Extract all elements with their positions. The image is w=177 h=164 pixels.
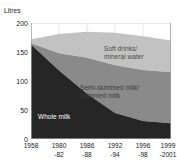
- x-tick-1996-98: 1996 -98: [136, 142, 151, 159]
- stacked-area-svg: [31, 23, 171, 139]
- x-tick-1980-82: 1980 -82: [52, 142, 67, 159]
- series-label-soft-drinks: Soft drinks/ mineral water: [104, 45, 144, 61]
- x-tick-1992-94: 1992 -94: [108, 142, 123, 159]
- x-axis-ticks: 1958 1980 -82 1986 -88 1992 -94 1996 -98…: [0, 141, 177, 164]
- series-label-semi-skimmed-line1: Semi-skimmed milk/: [80, 84, 139, 91]
- x-tick-1986-88: 1986 -88: [80, 142, 95, 159]
- series-label-soft-drinks-line2: mineral water: [104, 53, 144, 60]
- series-label-semi-skimmed-line2: skimmed milk: [80, 92, 120, 99]
- x-tick-1999-2001: 1999 -2001: [160, 142, 177, 159]
- series-label-semi-skimmed: Semi-skimmed milk/ skimmed milk: [80, 84, 139, 100]
- plot-area: Soft drinks/ mineral water Semi-skimmed …: [31, 23, 171, 139]
- chart-figure: ............ Litres 200 150 100 50 0: [0, 0, 177, 164]
- series-label-whole-milk: Whole milk: [38, 113, 70, 121]
- y-tick-150: 150: [16, 49, 28, 56]
- x-tick-1958: 1958: [24, 142, 39, 151]
- y-tick-100: 100: [16, 78, 28, 85]
- y-axis-ticks: 200 150 100 50 0: [0, 0, 28, 164]
- series-label-soft-drinks-line1: Soft drinks/: [104, 45, 137, 52]
- y-tick-200: 200: [16, 20, 28, 27]
- y-tick-50: 50: [20, 107, 28, 114]
